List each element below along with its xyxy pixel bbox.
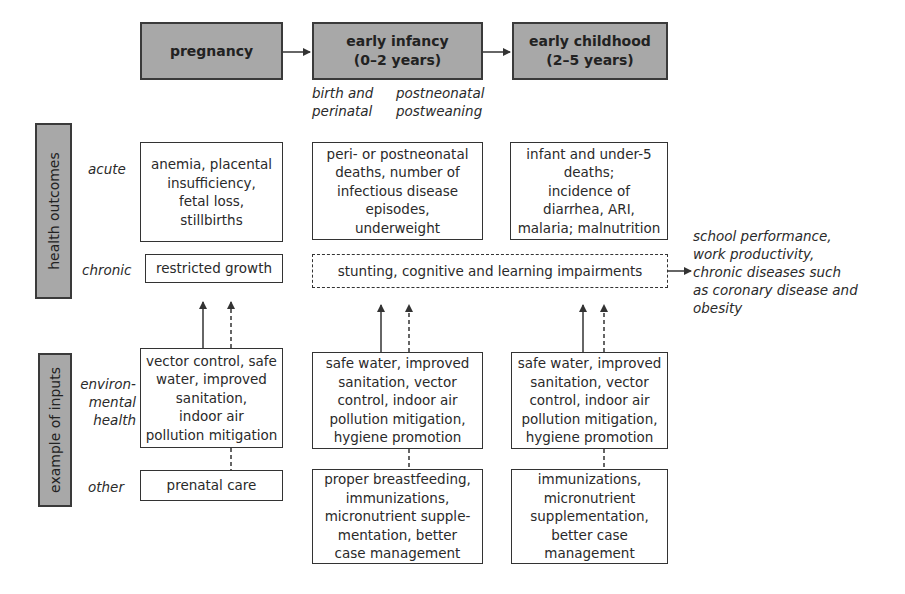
connector-arrows xyxy=(0,0,905,594)
